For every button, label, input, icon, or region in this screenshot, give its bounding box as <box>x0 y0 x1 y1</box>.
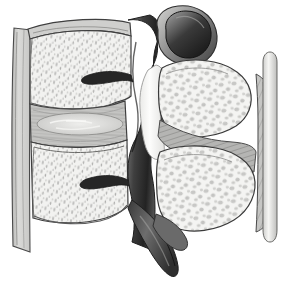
vertebrae-sagittal-section-svg <box>0 0 294 285</box>
anatomy-illustration <box>0 0 294 285</box>
vertebral-body-upper <box>28 19 133 110</box>
anterior-longitudinal-ligament <box>12 28 31 252</box>
nucleus-pulposus <box>37 113 123 135</box>
facet-joint <box>166 11 211 58</box>
vertebral-body-lower <box>31 140 131 224</box>
supraspinous-ligament <box>263 52 277 242</box>
